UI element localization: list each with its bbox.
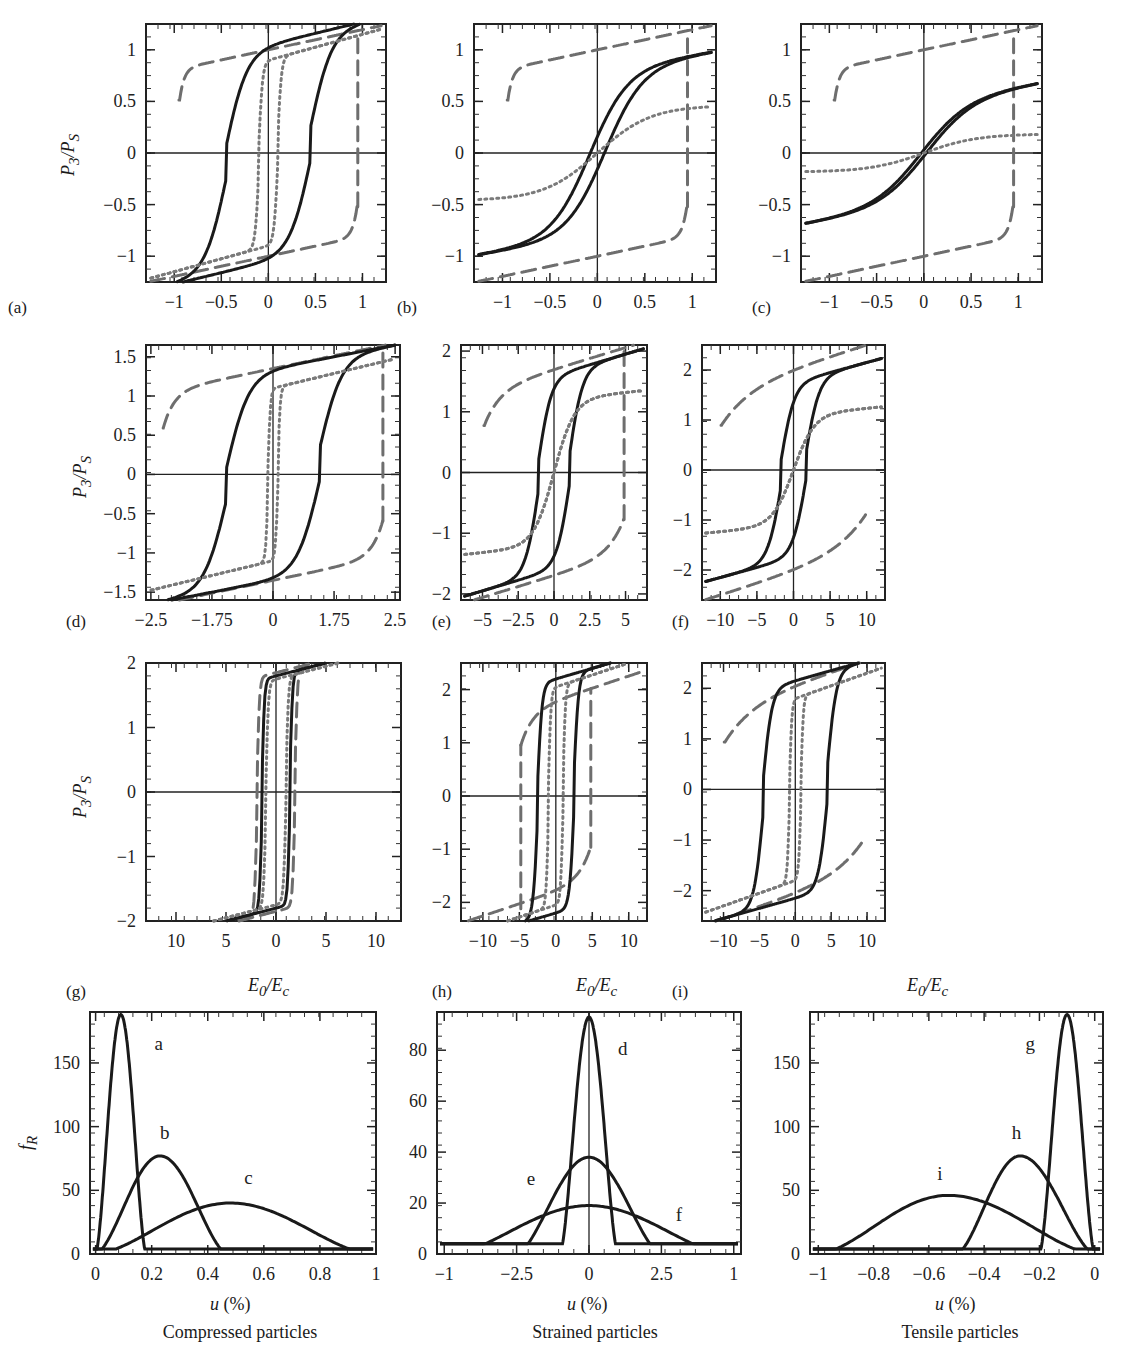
- x-tick-label: 5: [826, 610, 835, 630]
- x-tick-label: −10: [709, 931, 737, 951]
- chart-d: −2.5−1.7501.752.5−1.5−1−0.500.511.5: [103, 345, 406, 630]
- y-tick-label: 0: [127, 464, 136, 484]
- curve-dashed: [716, 837, 865, 921]
- x-axis-title-g: E0/Ec: [248, 975, 289, 1000]
- y-tick-label: 20: [409, 1193, 427, 1213]
- curve-solid: [525, 663, 610, 921]
- y-tick-label: 1.5: [114, 347, 137, 367]
- x-tick-label: 5: [827, 931, 836, 951]
- distribution-curve-i: [813, 1195, 1100, 1249]
- x-tick-label: 0: [919, 292, 928, 312]
- figure: −1−0.500.51−1−0.500.51−1−0.500.51−1−0.50…: [0, 0, 1127, 1369]
- curve-label-f: f: [676, 1204, 683, 1225]
- panel-label-a: (a): [8, 298, 27, 318]
- y-tick-label: 50: [782, 1180, 800, 1200]
- y-tick-label: 0: [791, 1244, 800, 1264]
- curve-solid: [168, 345, 395, 600]
- distribution-curve-h: [813, 1156, 1100, 1249]
- curve-label-a: a: [154, 1033, 163, 1054]
- x-tick-label: −1.75: [191, 610, 233, 630]
- x-tick-label: −5: [473, 610, 492, 630]
- x-tick-label: 0.5: [960, 292, 983, 312]
- x-tick-label: −5: [510, 931, 529, 951]
- x-tick-label: 5: [322, 931, 331, 951]
- x-tick-label: 2.5: [579, 610, 602, 630]
- y-tick-label: 0: [442, 786, 451, 806]
- y-tick-label: −2: [117, 911, 136, 931]
- x-tick-label: −0.4: [968, 1264, 1001, 1284]
- x-tick-label: 1.75: [318, 610, 350, 630]
- x-tick-label: −0.5: [860, 292, 893, 312]
- x-tick-label: 2.5: [384, 610, 407, 630]
- y-tick-label: −1: [673, 830, 692, 850]
- y-tick-label: 0: [418, 1244, 427, 1264]
- x-axis-title-h: E0/Ec: [576, 975, 617, 1000]
- x-tick-label: 0: [1090, 1264, 1099, 1284]
- plot-frame: [90, 1012, 376, 1254]
- x-tick-label: 1: [358, 292, 367, 312]
- curve-label-g: g: [1026, 1033, 1036, 1054]
- distribution-curve-c: [93, 1203, 373, 1249]
- chart-f: −10−50510−2−1012: [673, 345, 885, 630]
- curve-dashed: [479, 207, 687, 282]
- chart-c: −1−0.500.51−1−0.500.51: [758, 24, 1042, 312]
- curve-label-i: i: [937, 1163, 942, 1184]
- y-tick-label: 2: [683, 678, 692, 698]
- y-tick-label: 2: [442, 341, 451, 361]
- y-tick-label: −0.5: [103, 504, 136, 524]
- panel-label-i: (i): [672, 982, 688, 1002]
- x-tick-label: 0: [585, 1264, 594, 1284]
- x-tick-label: −0.6: [913, 1264, 946, 1284]
- distribution-curve-g: [813, 1015, 1100, 1249]
- chart-dist-tensile: −1−0.8−0.6−0.4−0.20050100150ghi: [773, 1012, 1103, 1284]
- x-tick-label: 0: [789, 610, 798, 630]
- panel-label-b: (b): [397, 298, 417, 318]
- y-tick-label: 1: [127, 40, 136, 60]
- x-tick-label: 0.8: [309, 1264, 332, 1284]
- y-tick-label: −2: [432, 584, 451, 604]
- x-tick-label: 0: [551, 931, 560, 951]
- x-tick-label: 0: [269, 610, 278, 630]
- y-axis-title-row2: P3/PS: [70, 456, 95, 498]
- x-tick-label: −2.5: [500, 1264, 533, 1284]
- x-tick-label: −5: [747, 610, 766, 630]
- curve-dashed: [507, 26, 711, 100]
- y-tick-label: 40: [409, 1142, 427, 1162]
- x-tick-label: −0.5: [534, 292, 567, 312]
- caption-tensile: Tensile particles: [860, 1322, 1060, 1343]
- x-axis-title-tensile: u (%): [935, 1294, 975, 1315]
- x-axis-title-strained: u (%): [567, 1294, 607, 1315]
- y-tick-label: 60: [409, 1091, 427, 1111]
- x-tick-label: 1: [1014, 292, 1023, 312]
- x-tick-label: 0.4: [197, 1264, 220, 1284]
- x-tick-label: 0: [550, 610, 559, 630]
- chart-dist-strained: −1−2.502.51020406080def: [409, 1012, 741, 1284]
- y-tick-label: 0.5: [114, 425, 137, 445]
- x-tick-label: 0: [593, 292, 602, 312]
- curve-label-d: d: [618, 1038, 628, 1059]
- y-tick-label: 1: [442, 402, 451, 422]
- x-tick-label: −1: [809, 1264, 828, 1284]
- chart-b: −1−0.500.51−1−0.500.51: [431, 24, 716, 312]
- curve-dashed: [706, 515, 866, 600]
- y-tick-label: 1: [455, 40, 464, 60]
- y-tick-label: −1.5: [103, 582, 136, 602]
- y-tick-label: −1: [432, 523, 451, 543]
- chart-g: 1050510−2−1012: [117, 653, 401, 951]
- x-tick-label: 0.5: [634, 292, 657, 312]
- x-tick-label: 0.6: [253, 1264, 276, 1284]
- y-tick-label: −1: [117, 847, 136, 867]
- x-tick-label: −5: [750, 931, 769, 951]
- y-tick-label: 80: [409, 1040, 427, 1060]
- chart-dist-compressed: 00.20.40.60.81050100150abc: [53, 1012, 381, 1284]
- y-tick-label: −2: [673, 881, 692, 901]
- y-tick-label: 2: [442, 680, 451, 700]
- y-tick-label: 1: [683, 729, 692, 749]
- panel-label-g: (g): [66, 982, 86, 1002]
- y-tick-label: 0: [71, 1244, 80, 1264]
- panel-label-e: (e): [432, 612, 451, 632]
- x-tick-label: 0: [91, 1264, 100, 1284]
- y-tick-label: 100: [773, 1117, 800, 1137]
- y-tick-label: 50: [62, 1180, 80, 1200]
- curve-dashed: [834, 26, 1037, 100]
